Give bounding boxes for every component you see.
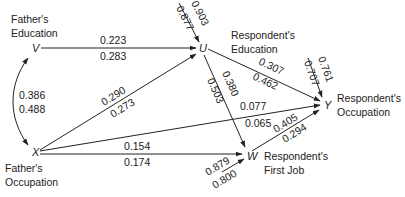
node-symbol: Y (324, 99, 332, 111)
edge-coef-lower: 0.174 (124, 156, 150, 168)
node-symbol: V (32, 42, 41, 54)
node-label: Occupation (337, 106, 390, 118)
node-label: Respondent's (231, 29, 295, 41)
node-label: Respondent's (264, 150, 328, 162)
node-respondent-first-job: W Respondent's First Job (247, 150, 328, 176)
node-respondent-occupation: Y Respondent's Occupation (324, 92, 401, 118)
edge-coef-upper: 0.077 (240, 100, 266, 112)
edge-v-x-correlation: 0.386 0.488 (13, 58, 45, 145)
edge-u-w: 0.380 0.503 (204, 55, 245, 147)
node-label: Education (231, 43, 278, 55)
edge-coef-lower: 0.065 (245, 117, 271, 129)
node-label: Father's (5, 162, 43, 174)
edge-residual-w: 0.879 0.800 (203, 154, 244, 191)
node-symbol: U (199, 42, 207, 54)
edge-x-u: 0.290 0.273 (40, 54, 196, 150)
node-label: Respondent's (337, 92, 401, 104)
edge-coef-upper: 0.223 (100, 34, 126, 46)
edge-residual-u: 0.903 0.877 (174, 0, 212, 42)
node-symbol: X (31, 146, 40, 158)
node-label: Occupation (5, 176, 58, 188)
node-label: Education (11, 27, 58, 39)
edge-residual-y: 0.761 0.707 (302, 55, 336, 97)
edge-v-u: 0.223 0.283 (41, 34, 196, 62)
edge-coef-upper: 0.386 (19, 89, 45, 101)
node-father-occupation: X Father's Occupation (5, 146, 58, 188)
node-label: Father's (11, 13, 49, 25)
path-diagram: Father's Education V X Father's Occupati… (0, 0, 405, 197)
node-symbol: W (247, 150, 259, 162)
edge-coef-lower: 0.283 (100, 50, 126, 62)
edge-coef-upper: 0.154 (124, 140, 150, 152)
edge-coef-lower: 0.488 (19, 103, 45, 115)
node-label: First Job (264, 164, 304, 176)
